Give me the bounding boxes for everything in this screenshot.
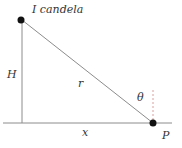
distance-label: r: [78, 77, 84, 90]
point-p-dot: [150, 120, 157, 127]
point-label: P: [161, 129, 170, 142]
distance-line: [22, 20, 153, 123]
source-label: I candela: [31, 3, 83, 16]
light-source-dot: [18, 17, 25, 24]
horizontal-label: x: [82, 126, 89, 139]
height-label: H: [6, 68, 17, 81]
light-geometry-diagram: I candela H r θ x P: [0, 0, 182, 148]
angle-label: θ: [137, 91, 144, 104]
